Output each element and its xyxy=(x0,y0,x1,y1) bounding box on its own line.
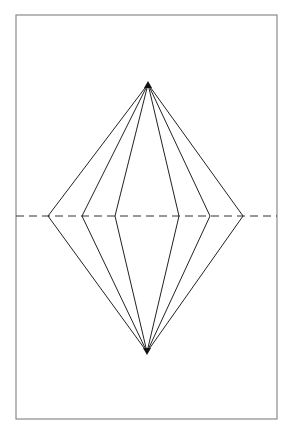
fold-line xyxy=(147,84,243,352)
fold-lines xyxy=(48,84,243,352)
diagram-canvas xyxy=(0,0,292,432)
bottom-vertex-marker xyxy=(143,348,151,355)
fold-line xyxy=(48,84,148,352)
fold-line xyxy=(115,84,148,352)
frame xyxy=(16,15,277,419)
fold-line xyxy=(147,84,179,352)
top-vertex-marker xyxy=(144,81,152,88)
